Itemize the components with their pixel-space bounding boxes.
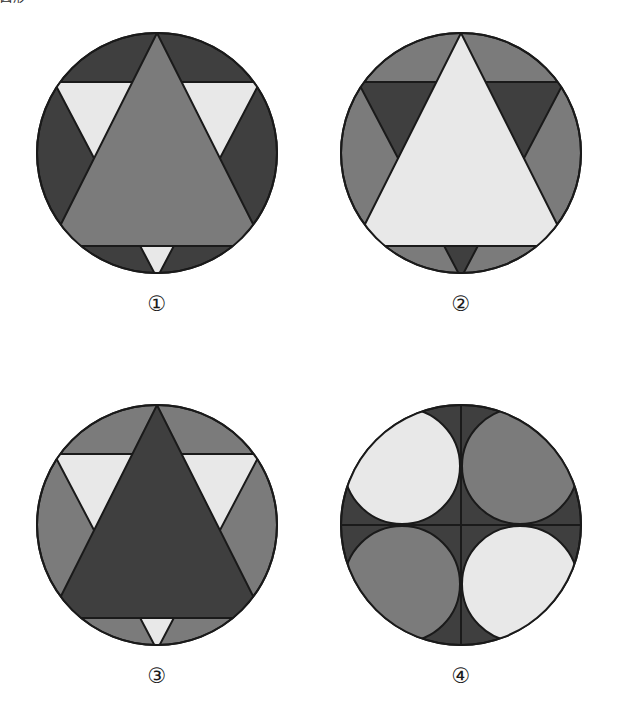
figure-2-caption: ② (316, 292, 606, 316)
figure-1-graphic (32, 28, 282, 278)
figure-4-caption: ④ (316, 664, 606, 688)
figure-2-graphic (336, 28, 586, 278)
figure-3-graphic (32, 400, 282, 650)
figure-3-caption: ③ (12, 664, 302, 688)
figure-grid: ① ② (0, 0, 618, 717)
figure-item-1[interactable]: ① (12, 28, 302, 358)
figure-4-inner-circle-bottom-left (344, 526, 460, 642)
figure-item-4[interactable]: ④ (316, 400, 606, 717)
figure-4-graphic (336, 400, 586, 650)
figure-item-2[interactable]: ② (316, 28, 606, 358)
figure-4-inner-circle-bottom-right (462, 526, 578, 642)
figure-4-inner-circle-top-left (344, 408, 460, 524)
figure-item-3[interactable]: ③ (12, 400, 302, 717)
figure-4-inner-circle-top-right (462, 408, 578, 524)
page-root: 図形 ① (0, 0, 618, 717)
figure-1-caption: ① (12, 292, 302, 316)
